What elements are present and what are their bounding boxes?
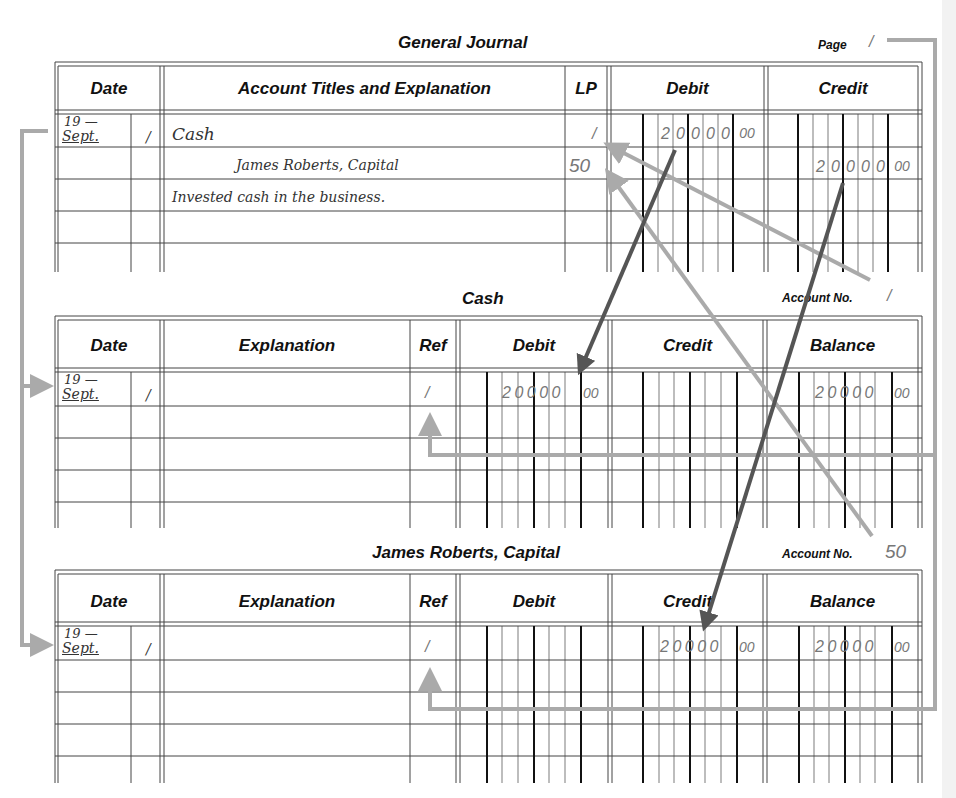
account-no-to-lp-arrow-icon <box>612 178 872 536</box>
date-transfer-arrow-icon <box>22 131 48 645</box>
debit-posting-arrow-icon <box>582 150 675 366</box>
page-ref-arrow-icon <box>430 40 935 709</box>
credit-posting-arrow-icon <box>706 183 843 622</box>
posting-arrows <box>0 0 956 798</box>
